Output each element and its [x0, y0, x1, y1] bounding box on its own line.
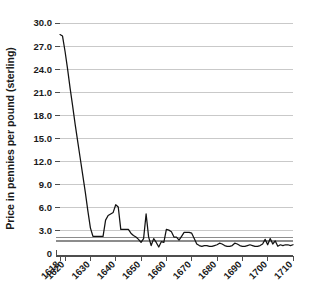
- series-line-0: [60, 35, 293, 248]
- y-tick-label-21.0: 21.0: [34, 87, 53, 98]
- x-tick-labels: 1618162016301640165016601670168016901700…: [39, 259, 295, 282]
- chart-canvas: 03.06.09.012.015.018.021.024.027.030.0 1…: [0, 0, 311, 304]
- y-tick-label-18.0: 18.0: [34, 110, 53, 121]
- x-tick-label-1700: 1700: [246, 259, 269, 282]
- data-series-line: [60, 35, 293, 248]
- y-tick-label-15.0: 15.0: [34, 133, 53, 144]
- x-tick-label-1640: 1640: [94, 259, 117, 282]
- y-tick-label-0: 0: [47, 248, 52, 259]
- y-tick-label-30.0: 30.0: [34, 17, 53, 28]
- x-axis: [56, 250, 293, 261]
- y-tick-label-6.0: 6.0: [39, 202, 52, 213]
- x-tick-label-1630: 1630: [69, 259, 92, 282]
- y-axis-title: Price in pennies per pound (sterling): [4, 47, 16, 230]
- x-tick-label-1660: 1660: [145, 259, 168, 282]
- gridlines: [60, 23, 293, 231]
- price-chart: 03.06.09.012.015.018.021.024.027.030.0 1…: [0, 0, 311, 304]
- y-axis-title-text: Price in pennies per pound (sterling): [4, 47, 16, 230]
- y-tick-label-24.0: 24.0: [34, 64, 53, 75]
- x-tick-label-1690: 1690: [221, 259, 244, 282]
- x-tick-label-1650: 1650: [120, 259, 143, 282]
- y-tick-label-3.0: 3.0: [39, 225, 52, 236]
- y-tick-label-9.0: 9.0: [39, 179, 52, 190]
- reference-band: [56, 237, 293, 241]
- x-tick-label-1710: 1710: [272, 259, 295, 282]
- x-tick-label-1620: 1620: [44, 259, 67, 282]
- x-tick-label-1670: 1670: [170, 259, 193, 282]
- x-tick-label-1680: 1680: [196, 259, 219, 282]
- y-tick-label-12.0: 12.0: [34, 156, 53, 167]
- y-tick-labels: 03.06.09.012.015.018.021.024.027.030.0: [34, 17, 61, 259]
- y-tick-label-27.0: 27.0: [34, 41, 53, 52]
